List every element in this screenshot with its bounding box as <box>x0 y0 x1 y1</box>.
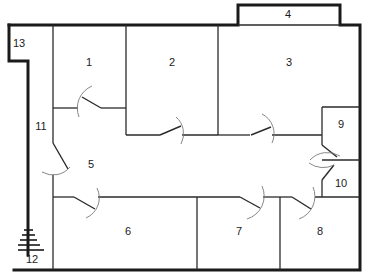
door-room-7 <box>240 186 264 219</box>
door-room-2 <box>160 117 184 144</box>
room-label-3: 3 <box>286 56 292 68</box>
room-labels: 13 1 2 3 4 11 5 9 10 6 7 8 12 <box>13 8 347 265</box>
exterior-walls <box>9 5 360 270</box>
room-label-10: 10 <box>335 177 347 189</box>
room-label-4: 4 <box>285 8 291 20</box>
door-room-6 <box>74 188 99 218</box>
room-label-11: 11 <box>35 120 46 132</box>
door-corridor-11 <box>42 143 70 175</box>
interior-walls <box>53 25 360 270</box>
door-room-10 <box>309 163 334 180</box>
staircase <box>18 230 44 255</box>
room-label-9: 9 <box>338 118 344 130</box>
room-label-12: 12 <box>26 253 38 265</box>
doors <box>42 86 340 219</box>
room-label-2: 2 <box>169 56 175 68</box>
room-label-8: 8 <box>317 225 323 237</box>
floor-plan: 13 1 2 3 4 11 5 9 10 6 7 8 12 <box>0 0 371 277</box>
room-label-6: 6 <box>125 225 131 237</box>
room-label-5: 5 <box>88 158 94 170</box>
door-room-8 <box>292 187 315 219</box>
room-label-1: 1 <box>86 56 92 68</box>
room-label-13: 13 <box>13 37 25 49</box>
door-room-1 <box>77 86 101 117</box>
door-room-3 <box>251 114 274 143</box>
room-label-7: 7 <box>236 225 242 237</box>
door-room-9 <box>310 145 340 160</box>
